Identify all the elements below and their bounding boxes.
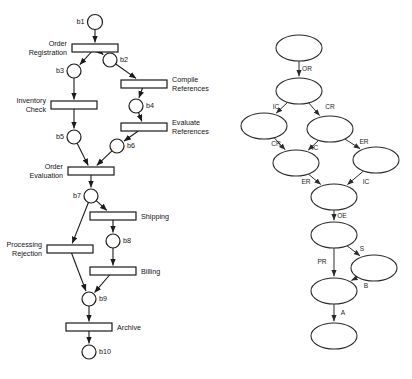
rg-node-m2 [241, 113, 287, 139]
rg-edge-m7-m8 [347, 246, 360, 256]
transition-t_oe [68, 167, 114, 175]
transition-label-t_or: OrderRegistration [29, 39, 68, 57]
rg-edge-label-S: S [360, 245, 365, 252]
transition-label-t_ar: Archive [117, 323, 141, 332]
transition-t_ar [66, 323, 112, 331]
rg-edge-label-IC: IC [312, 144, 319, 151]
transition-t_sh [90, 212, 136, 220]
place-label-b7: b7 [73, 191, 81, 200]
place-b3 [67, 64, 81, 78]
rg-node-m6 [311, 184, 357, 210]
rg-node-m0 [276, 35, 322, 61]
rg-node-m8 [351, 255, 397, 281]
rg-edge-label-IC: IC [363, 178, 370, 185]
rg-edge-label-OE: OE [337, 212, 347, 219]
transition-label-t_ic: InventoryCheck [16, 96, 46, 114]
place-b4 [129, 99, 143, 113]
place-label-b4: b4 [146, 101, 154, 110]
place-label-b1: b1 [77, 17, 85, 26]
transition-label-t_pr: ProcessingRejection [6, 240, 42, 258]
place-b10 [82, 345, 96, 359]
place-label-b6: b6 [127, 141, 135, 150]
rg-edge-label-CR: CR [325, 103, 335, 110]
transition-t_ic [51, 101, 97, 109]
transition-t_bi [90, 267, 136, 275]
rg-edge-label-ER: ER [301, 178, 310, 185]
transition-label-t_oe: OrderEvaluation [29, 162, 63, 180]
petri-arc [139, 88, 143, 98]
place-label-b5: b5 [56, 132, 64, 141]
transition-label-t_bi: Billing [141, 267, 160, 276]
rg-edge-label-A: A [341, 309, 346, 316]
place-label-b10: b10 [99, 347, 111, 356]
rg-node-m4 [273, 150, 319, 176]
transition-t_er [121, 123, 167, 131]
petri-arc [95, 275, 110, 292]
rg-edge-label-B: B [364, 282, 369, 289]
transition-label-t_cr: CompileReferences [172, 75, 209, 93]
diagram-svg: b1b2b3b4b5b6b7b8b9b10OrderRegistrationCo… [0, 0, 412, 379]
rg-edge-label-PR: PR [317, 258, 326, 265]
place-label-b8: b8 [123, 236, 131, 245]
caption-strip [0, 366, 412, 379]
transition-label-t_er: EvaluateReferences [172, 118, 209, 136]
place-b2 [103, 53, 117, 67]
transition-t_pr [47, 245, 93, 253]
rg-edge-m1-m3 [309, 103, 320, 116]
rg-edge-label-IC: IC [273, 103, 280, 110]
rg-node-m7 [311, 222, 357, 248]
petri-arc [80, 52, 92, 65]
place-label-b9: b9 [99, 294, 107, 303]
petri-arc [77, 143, 88, 165]
rg-edge-label-ER: ER [359, 138, 368, 145]
rg-node-m1 [276, 78, 322, 104]
rg-node-m3 [307, 116, 353, 142]
reachability-graph-nodes [241, 35, 399, 349]
rg-edge-m5-m6 [347, 171, 363, 185]
petri-arc [138, 113, 141, 122]
transition-label-t_sh: Shipping [141, 212, 169, 221]
place-b9 [82, 292, 96, 306]
petri-arc [96, 201, 107, 211]
rg-node-m10 [311, 323, 357, 349]
place-label-b3: b3 [56, 66, 64, 75]
transition-t_cr [121, 80, 167, 88]
petri-arc [97, 151, 112, 166]
rg-node-m5 [353, 147, 399, 173]
place-label-b2: b2 [120, 55, 128, 64]
petri-arc [116, 64, 136, 78]
petri-arc [72, 203, 88, 244]
figure-canvas: b1b2b3b4b5b6b7b8b9b10OrderRegistrationCo… [0, 0, 412, 379]
petri-arc [124, 131, 138, 141]
rg-edge-m8-m9 [351, 277, 357, 280]
place-b6 [110, 139, 124, 153]
transition-t_or [72, 44, 118, 52]
rg-edge-m3-m5 [345, 139, 360, 149]
place-b8 [106, 234, 120, 248]
rg-edge-label-CR: CR [271, 140, 281, 147]
petri-arc [72, 253, 86, 291]
place-b5 [67, 130, 81, 144]
place-b7 [84, 189, 98, 203]
place-b1 [88, 15, 103, 30]
rg-node-m9 [311, 278, 357, 304]
rg-edge-label-OR: OR [302, 65, 312, 72]
petri-net-nodes: b1b2b3b4b5b6b7b8b9b10OrderRegistrationCo… [6, 15, 209, 360]
